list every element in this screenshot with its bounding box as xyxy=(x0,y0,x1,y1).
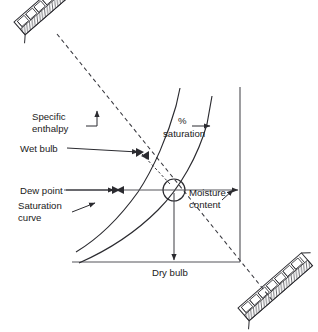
percent-saturation-label-line1: % xyxy=(178,115,187,126)
dry-bulb-label: Dry bulb xyxy=(152,267,188,278)
saturation-curve-label-line2: curve xyxy=(18,212,41,223)
specific-enthalpy-label-line1: Specific xyxy=(32,111,66,122)
saturation-curve-label-line1: Saturation xyxy=(18,200,62,211)
percent-saturation-label-line2: saturation xyxy=(163,128,205,139)
moisture-content-label-line1: Moisture xyxy=(189,187,226,198)
moisture-content-label-line2: content xyxy=(189,199,221,210)
specific-enthalpy-label-line2: enthalpy xyxy=(32,123,68,134)
psychrometric-chart-diagram: Specific enthalpy Wet bulb Dew point Sat… xyxy=(0,0,318,332)
dew-point-label: Dew point xyxy=(20,185,63,196)
wet-bulb-label: Wet bulb xyxy=(20,143,58,154)
